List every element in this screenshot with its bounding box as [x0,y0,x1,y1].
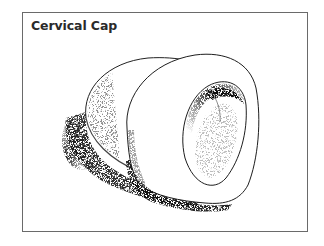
cervical-cap-illustration [0,0,324,246]
